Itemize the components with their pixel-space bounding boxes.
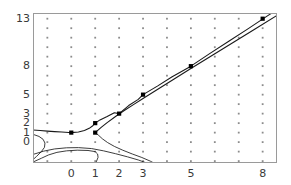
y-tick-label: 5	[23, 89, 30, 100]
grid-dot	[118, 151, 120, 153]
grid-dot	[166, 84, 168, 86]
grid-dot	[214, 56, 216, 58]
grid-dot	[94, 141, 96, 143]
grid-dot	[70, 56, 72, 58]
grid-dot	[214, 141, 216, 143]
grid-dot	[70, 37, 72, 39]
grid-dot	[214, 18, 216, 20]
grid-dot	[94, 18, 96, 20]
grid-dot	[214, 103, 216, 105]
grid-dot	[70, 141, 72, 143]
grid-dot	[190, 84, 192, 86]
grid-dot	[262, 160, 264, 162]
data-point	[261, 17, 265, 21]
grid-dot	[142, 113, 144, 115]
grid-dot	[238, 160, 240, 162]
grid-dot	[70, 160, 72, 162]
grid-dot	[238, 18, 240, 20]
grid-dot	[142, 56, 144, 58]
grid-dot	[142, 103, 144, 105]
data-point	[141, 93, 145, 97]
grid-dot	[238, 27, 240, 29]
grid-dot	[46, 160, 48, 162]
x-tick-label: 8	[243, 168, 283, 179]
y-tick-label: 8	[23, 60, 30, 71]
grid-dot	[238, 56, 240, 58]
grid-dot	[190, 37, 192, 39]
grid-dot	[166, 103, 168, 105]
grid-dot	[142, 132, 144, 134]
data-point	[189, 64, 193, 68]
grid-dot	[142, 75, 144, 77]
data-point	[69, 131, 73, 135]
grid-dot	[118, 94, 120, 96]
grid-dot	[46, 84, 48, 86]
grid-dot	[142, 46, 144, 48]
data-point	[93, 121, 97, 125]
grid-dot	[142, 141, 144, 143]
grid-dot	[214, 132, 216, 134]
grid-dot	[46, 18, 48, 20]
grid-dot	[190, 27, 192, 29]
grid-dot	[262, 132, 264, 134]
grid-dot	[166, 94, 168, 96]
grid-dot	[142, 84, 144, 86]
grid-dot	[166, 132, 168, 134]
x-tick-label: 3	[123, 168, 163, 179]
y-tick-label: 13	[16, 13, 30, 24]
grid-dot	[166, 151, 168, 153]
grid-dot	[46, 46, 48, 48]
grid-dot	[238, 84, 240, 86]
grid-dot	[94, 56, 96, 58]
grid-dot	[214, 84, 216, 86]
grid-dot	[118, 141, 120, 143]
grid-dot	[94, 94, 96, 96]
grid-dot	[118, 103, 120, 105]
fibonacci-contour-figure: 01235813 012358	[0, 0, 291, 185]
grid-dot	[214, 46, 216, 48]
grid-dot	[46, 37, 48, 39]
grid-dot	[190, 94, 192, 96]
grid-dot	[94, 103, 96, 105]
grid-dot	[70, 46, 72, 48]
grid-dot	[46, 103, 48, 105]
grid-dot	[118, 37, 120, 39]
grid-dot	[238, 65, 240, 67]
grid-dot	[262, 65, 264, 67]
grid-dot	[142, 18, 144, 20]
grid-dot	[46, 122, 48, 124]
grid-dot	[262, 84, 264, 86]
grid-dot	[70, 84, 72, 86]
grid-dot	[118, 18, 120, 20]
grid-dot	[94, 27, 96, 29]
grid-dot	[118, 160, 120, 162]
grid-dot	[94, 46, 96, 48]
grid-dot	[70, 103, 72, 105]
grid-dot	[166, 75, 168, 77]
grid-dot	[190, 113, 192, 115]
grid-dot	[166, 56, 168, 58]
grid-dot	[142, 27, 144, 29]
grid-dot	[142, 37, 144, 39]
grid-dot	[166, 160, 168, 162]
grid-dot	[94, 37, 96, 39]
grid-dot	[262, 151, 264, 153]
grid-dot	[190, 18, 192, 20]
y-tick-label: 3	[23, 108, 30, 119]
grid-dot	[262, 141, 264, 143]
grid-dot	[46, 65, 48, 67]
grid-dot	[214, 113, 216, 115]
grid-dot	[214, 27, 216, 29]
grid-dot	[262, 37, 264, 39]
grid-dot	[70, 113, 72, 115]
grid-dot	[238, 75, 240, 77]
grid-dot	[94, 160, 96, 162]
grid-dot	[190, 56, 192, 58]
grid-dot	[262, 46, 264, 48]
grid-dot	[238, 151, 240, 153]
grid-dot	[70, 75, 72, 77]
grid-dot	[94, 113, 96, 115]
grid-dot	[238, 132, 240, 134]
grid-dot	[214, 65, 216, 67]
grid-dot	[190, 103, 192, 105]
